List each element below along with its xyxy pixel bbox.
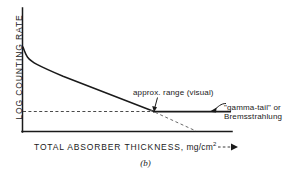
gamma-tail-annotation-line2: Bremsstrahlung [224,112,282,121]
x-axis-label-text: TOTAL ABSORBER THICKNESS, [34,142,184,152]
x-axis-label: TOTAL ABSORBER THICKNESS, mg/cm2 [34,142,217,152]
x-axis-arrowhead-icon [231,144,238,151]
gamma-tail-annotation: "gamma-tail" or Bremsstrahlung [224,103,282,122]
x-axis-unit-exponent: 2 [213,141,217,147]
beta-absorption-curve [23,47,154,112]
y-axis-label: LOG COUNTING RATE [14,12,24,122]
figure-container: LOG COUNTING RATE TOTAL ABSORBER THICKNE… [0,0,291,177]
figure-caption: (b) [0,158,291,169]
x-axis-unit-text: mg/cm [186,142,213,152]
extrapolated-beta-line [150,110,196,131]
approx-range-annotation: approx. range (visual) [133,88,214,97]
x-axis-unit: mg/cm2 [184,142,217,152]
gamma-arrowhead-icon [209,108,216,113]
gamma-tail-annotation-line1: "gamma-tail" or [224,103,282,112]
